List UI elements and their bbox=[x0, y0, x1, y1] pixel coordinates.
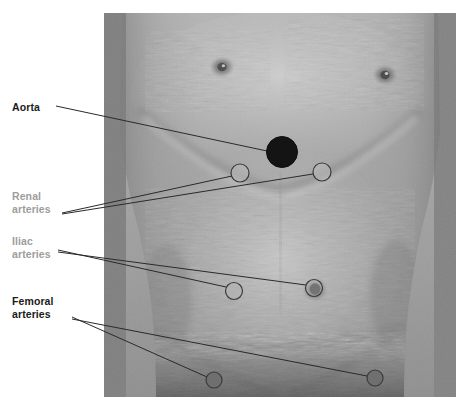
torso-photo-render bbox=[104, 13, 456, 397]
label-femoral-line-1: Femoral bbox=[12, 295, 54, 308]
label-aorta: Aorta bbox=[12, 101, 40, 114]
label-iliac-line-1: Iliac bbox=[12, 235, 51, 248]
label-renal-line-2: arteries bbox=[12, 203, 51, 216]
label-femoral-arteries: Femoral arteries bbox=[12, 295, 54, 320]
label-renal-line-1: Renal bbox=[12, 190, 51, 203]
label-aorta-line-1: Aorta bbox=[12, 101, 40, 114]
label-iliac-arteries: Iliac arteries bbox=[12, 235, 51, 260]
label-renal-arteries: Renal arteries bbox=[12, 190, 51, 215]
label-femoral-line-2: arteries bbox=[12, 308, 54, 321]
anatomy-figure: Aorta Renal arteries Iliac arteries Femo… bbox=[0, 0, 472, 412]
torso-photograph bbox=[104, 13, 456, 397]
label-iliac-line-2: arteries bbox=[12, 248, 51, 261]
